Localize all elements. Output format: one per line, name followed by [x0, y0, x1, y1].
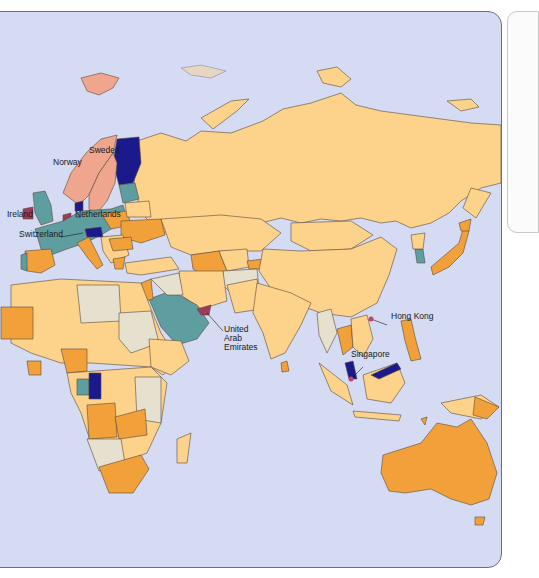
- java: [353, 411, 401, 421]
- svalbard: [81, 73, 119, 95]
- hungary-romania: [109, 237, 133, 251]
- label-hong-kong: Hong Kong: [391, 312, 434, 321]
- novaya-zemlya: [201, 99, 249, 129]
- label-netherlands: Netherlands: [75, 210, 121, 219]
- adjacent-panel-edge: [507, 11, 539, 233]
- hong-kong-marker: [369, 317, 374, 322]
- japan: [431, 229, 469, 275]
- severnaya-zemlya: [317, 67, 351, 87]
- gabon: [77, 379, 89, 395]
- angola: [87, 403, 117, 439]
- libya-region: [77, 285, 121, 323]
- russia: [131, 93, 501, 233]
- new-siberian-is: [447, 99, 479, 111]
- myanmar: [317, 309, 337, 353]
- south-korea: [415, 249, 425, 263]
- madagascar: [177, 433, 191, 463]
- franz-josef: [181, 65, 226, 78]
- new-caledonia: [421, 417, 427, 425]
- label-sweden: Sweden: [89, 146, 120, 155]
- uk: [33, 191, 53, 225]
- singapore-marker: [349, 377, 354, 382]
- italy: [77, 237, 103, 269]
- label-uae-line3: Emirates: [224, 343, 258, 352]
- portugal: [21, 253, 27, 271]
- ivory-coast: [27, 361, 41, 375]
- iraq-syria: [151, 273, 183, 295]
- austria: [85, 227, 103, 237]
- north-korea: [411, 233, 425, 249]
- hokkaido: [459, 219, 471, 231]
- label-ireland: Ireland: [7, 210, 33, 219]
- label-switzerland: Switzerland: [19, 230, 63, 239]
- congo: [89, 373, 101, 399]
- map-svg: [0, 12, 502, 568]
- greece: [113, 257, 125, 269]
- label-singapore: Singapore: [351, 350, 390, 359]
- nigeria: [61, 349, 87, 373]
- sri-lanka: [281, 361, 289, 372]
- belarus: [125, 201, 151, 217]
- australia: [381, 419, 497, 505]
- baltics: [119, 183, 139, 203]
- malaysia-peninsula: [345, 361, 357, 379]
- world-map-panel: Norway Sweden Ireland Netherlands Switze…: [0, 11, 502, 568]
- tasmania: [475, 517, 485, 525]
- spain: [25, 249, 55, 273]
- label-norway: Norway: [53, 158, 82, 167]
- mauritania: [1, 307, 33, 339]
- philippines: [401, 319, 421, 361]
- turkey: [125, 257, 179, 275]
